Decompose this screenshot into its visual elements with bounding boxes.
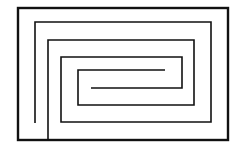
spiral-wall-a	[35, 22, 211, 123]
maze-diagram	[0, 0, 241, 149]
spiral-wall-b	[48, 40, 194, 140]
maze-outer-frame	[18, 8, 228, 140]
